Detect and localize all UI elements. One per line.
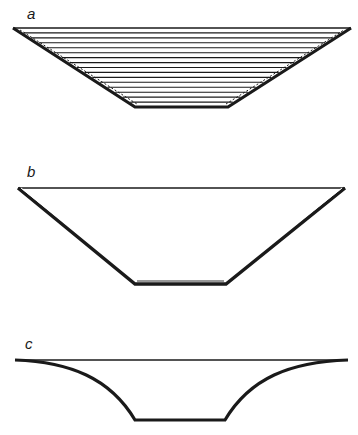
panel-c-curved-profile [15, 360, 348, 420]
panel-a-trapezoid [13, 28, 351, 107]
diagram-canvas [0, 0, 358, 435]
panel-b-trapezoid [18, 188, 345, 284]
